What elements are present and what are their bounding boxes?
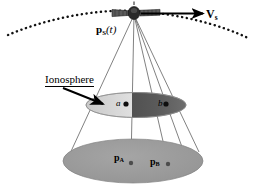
- ground-point-b-subscript: B: [156, 160, 160, 167]
- satellite-position-argument: (t): [106, 23, 116, 35]
- ground-point-a-subscript: A: [120, 156, 124, 163]
- velocity-label: Vs: [206, 8, 218, 21]
- ground-point-b-label: pB: [150, 157, 160, 168]
- pierce-point-a-label: a: [116, 99, 121, 108]
- signal-ray: [134, 15, 186, 158]
- satellite-icon: [112, 2, 160, 20]
- velocity-symbol: V: [206, 7, 215, 21]
- pierce-point-b-marker: [163, 101, 168, 106]
- satellite-position-label: pS(t): [96, 24, 116, 36]
- ionosphere-layer: [86, 93, 186, 118]
- figure-container: pS(t) Vs Ionosphere a b pA pB: [0, 0, 258, 186]
- ground-point-a-label: pA: [114, 153, 124, 164]
- signal-ray: [67, 15, 134, 160]
- diagram-canvas: [0, 0, 258, 186]
- signal-ray: [134, 15, 199, 152]
- ground-point-b-marker: [166, 162, 170, 166]
- velocity-subscript: s: [215, 13, 218, 22]
- ionosphere-label: Ionosphere: [45, 74, 94, 87]
- pierce-point-a-marker: [123, 101, 128, 106]
- ground-plane: [63, 139, 203, 183]
- pierce-point-b-label: b: [158, 99, 163, 108]
- ground-point-a-marker: [129, 161, 133, 165]
